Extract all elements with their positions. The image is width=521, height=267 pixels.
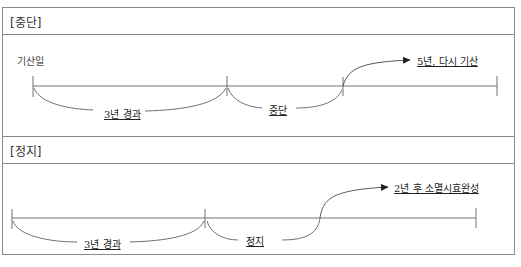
brace-right: [296, 90, 342, 108]
brace-left: [34, 88, 93, 110]
segment-label-elapsed: 3년 경과: [104, 106, 141, 121]
result-label-expiry: 2년 후 소멸시효완성: [394, 180, 479, 195]
brace-left: [207, 221, 238, 240]
brace-left: [13, 221, 77, 242]
segment-label-interruption: 중단: [269, 102, 287, 117]
result-label-restart: 5년, 다시 기산: [417, 53, 478, 68]
brace-right: [145, 88, 226, 111]
brace-left: [228, 88, 262, 108]
arrow-curve: [320, 187, 388, 218]
start-date-label: 기산일: [17, 53, 44, 68]
arrow-curve: [343, 60, 410, 86]
brace-right: [282, 218, 320, 240]
segment-label-elapsed: 3년 경과: [84, 236, 121, 251]
brace-right: [130, 221, 204, 242]
timeline-suspension: [12, 187, 476, 242]
segment-label-suspension: 정지: [246, 233, 264, 248]
timeline-diagram: [0, 0, 521, 267]
